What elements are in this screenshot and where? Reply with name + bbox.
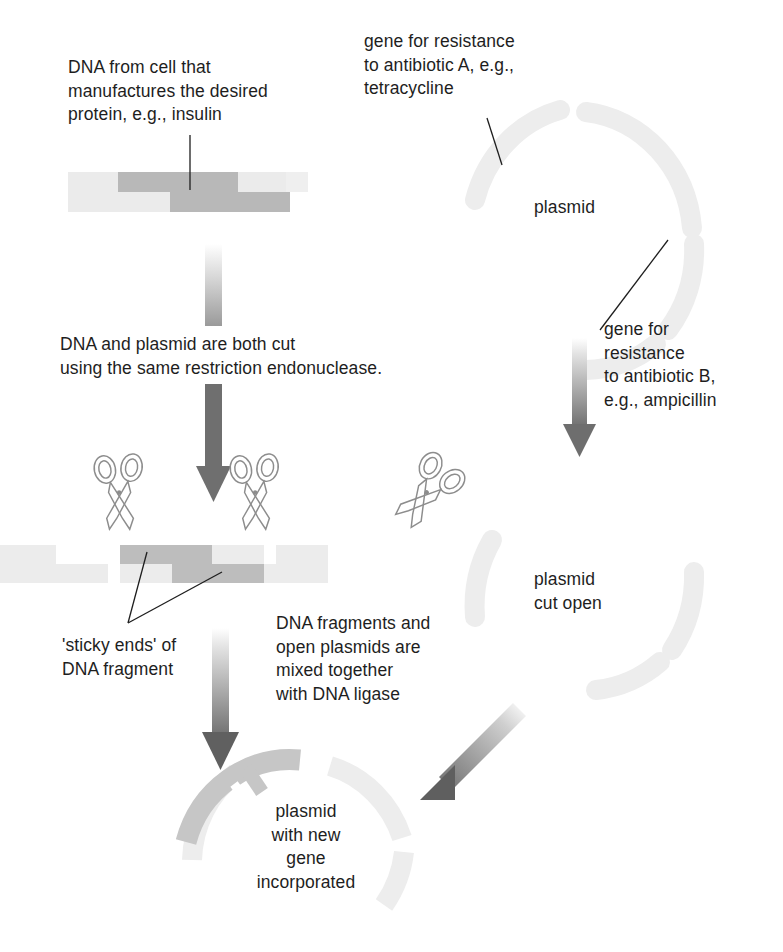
label-gene-resistance-b: gene for resistance to antibiotic B, e.g… bbox=[604, 318, 716, 412]
label-gene-resistance-a: gene for resistance to antibiotic A, e.g… bbox=[364, 30, 515, 101]
arrow-ligate-right bbox=[420, 703, 526, 800]
scissors-icon-plasmid bbox=[382, 444, 472, 537]
scissors-icon-left bbox=[92, 452, 145, 529]
label-plasmid: plasmid bbox=[534, 196, 595, 220]
label-plasmid-with-gene: plasmid with new gene incorporated bbox=[216, 800, 396, 894]
leader-line-gene-a bbox=[487, 118, 502, 165]
label-mixing-step: DNA fragments and open plasmids are mixe… bbox=[276, 612, 430, 706]
arrow-dna-fade bbox=[205, 244, 222, 326]
arrow-dna-cut bbox=[196, 384, 231, 502]
label-sticky-ends: 'sticky ends' of DNA fragment bbox=[62, 634, 176, 681]
plasmid-ring-open bbox=[475, 540, 694, 690]
label-dna-source: DNA from cell that manufactures the desi… bbox=[68, 56, 268, 127]
dna-strand-top bbox=[68, 172, 308, 212]
leader-lines-sticky-ends bbox=[128, 552, 222, 623]
label-cut-step: DNA and plasmid are both cut using the s… bbox=[60, 333, 382, 380]
dna-fragments-cut bbox=[0, 545, 328, 583]
diagram-canvas: DNA from cell that manufactures the desi… bbox=[0, 0, 783, 952]
scissors-icon-right bbox=[228, 452, 281, 529]
arrow-ligate-left bbox=[202, 628, 239, 770]
label-plasmid-cut-open: plasmid cut open bbox=[534, 568, 602, 615]
arrow-plasmid-cut bbox=[563, 338, 596, 457]
leader-line-gene-b bbox=[600, 240, 668, 330]
